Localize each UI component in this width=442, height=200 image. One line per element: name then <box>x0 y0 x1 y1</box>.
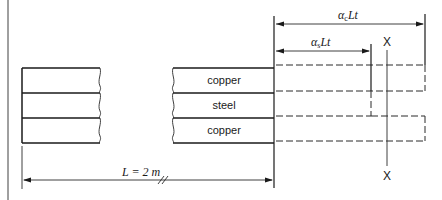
composite-bar-diagram: copper steel copper αcLt αsLt <box>0 0 442 200</box>
layer-label-copper-top: copper <box>207 74 241 86</box>
left-bar-stub <box>22 68 101 143</box>
layer-label-copper-bottom: copper <box>207 124 241 136</box>
expansion-outline <box>276 65 425 141</box>
section-marker-bottom: X <box>383 169 391 183</box>
dimension-copper-expansion: αcLt <box>276 8 424 27</box>
layer-label-steel: steel <box>212 99 235 111</box>
section-marker-top: X <box>383 35 391 49</box>
svg-text:αcLt: αcLt <box>338 8 359 23</box>
dimension-steel-expansion: αsLt <box>276 35 370 54</box>
svg-text:αsLt: αsLt <box>311 35 331 50</box>
dimension-length: L = 2 m <box>22 146 273 189</box>
right-bar-section: copper steel copper <box>172 16 274 188</box>
section-line-x-x: X X <box>383 35 391 183</box>
break-line-right <box>172 68 174 143</box>
length-label: L = 2 m <box>121 165 161 179</box>
break-line-left <box>99 68 101 143</box>
